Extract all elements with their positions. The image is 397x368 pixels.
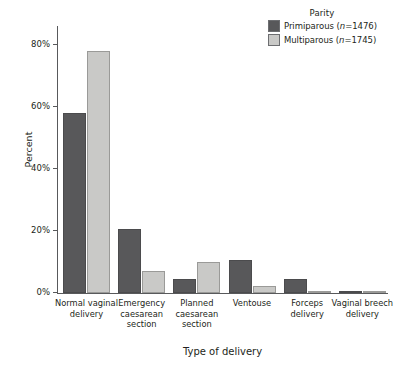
x-category-label: Vaginal breechdelivery	[325, 298, 397, 319]
x-category-label-line: section	[160, 319, 234, 330]
y-axis-title: Percent	[23, 132, 34, 168]
x-category-label-line: caesarean	[160, 309, 234, 320]
legend-title: Parity	[268, 8, 390, 18]
y-tick-60pct: 60%	[53, 106, 57, 107]
bar-multiparous[interactable]	[253, 286, 276, 293]
bar-primiparous[interactable]	[284, 279, 307, 293]
bar-primiparous[interactable]	[229, 260, 252, 293]
bar-multiparous[interactable]	[363, 291, 386, 293]
y-tick-20pct: 20%	[53, 230, 57, 231]
y-tick-label: 60%	[31, 101, 50, 111]
y-tick-80pct: 80%	[53, 44, 57, 45]
bar-primiparous[interactable]	[118, 229, 141, 293]
y-tick-label: 0%	[37, 287, 51, 297]
bar-multiparous[interactable]	[142, 271, 165, 293]
bar-primiparous[interactable]	[63, 113, 86, 293]
x-axis-title: Type of delivery	[57, 346, 388, 357]
x-axis-line	[57, 293, 388, 294]
bar-primiparous[interactable]	[339, 291, 362, 293]
y-tick-label: 20%	[31, 225, 50, 235]
x-category-label-line: delivery	[325, 309, 397, 320]
y-tick-label: 80%	[31, 39, 50, 49]
y-tick-40pct: 40%	[53, 168, 57, 169]
bar-multiparous[interactable]	[197, 262, 220, 293]
bar-primiparous[interactable]	[173, 279, 196, 293]
y-axis-line	[57, 26, 58, 294]
bar-multiparous[interactable]	[308, 291, 331, 293]
y-tick-0pct: 0%	[53, 292, 57, 293]
plot-area: 0%20%40%60%80% Normal vaginaldeliveryEme…	[57, 26, 388, 294]
x-category-label-line: Vaginal breech	[325, 298, 397, 309]
bar-multiparous[interactable]	[87, 51, 110, 293]
